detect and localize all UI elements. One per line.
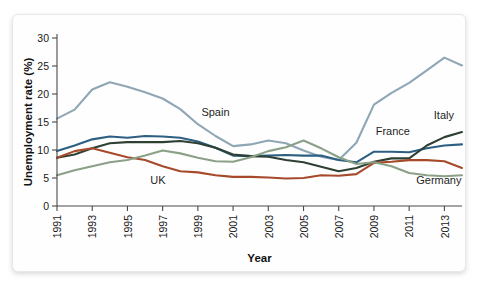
series-label-italy: Italy [434,109,455,121]
y-tick-label: 15 [37,116,49,128]
x-tick-label: 2007 [333,215,345,239]
x-tick-label: 2003 [263,215,275,239]
y-tick-label: 5 [43,172,49,184]
x-tick-label: 2011 [403,215,415,238]
series-label-france: France [376,125,410,137]
line-chart: 0510152025301991199319951997199920012003… [0,0,478,292]
x-axis-title: Year [247,252,272,264]
series-label-germany: Germany [416,174,462,186]
x-tick-label: 1997 [157,215,169,239]
series-line-spain [57,58,462,160]
x-tick-label: 2001 [227,215,239,239]
x-tick-label: 1993 [86,215,98,239]
y-tick-label: 25 [37,60,49,72]
y-tick-label: 20 [37,88,49,100]
x-tick-label: 1999 [192,215,204,239]
series-label-uk: UK [150,174,166,186]
x-tick-label: 2009 [368,215,380,239]
y-axis-title: Unemployment rate (%) [22,58,34,187]
x-tick-label: 2005 [298,215,310,239]
x-tick-label: 1995 [122,215,134,239]
chart-page: 0510152025301991199319951997199920012003… [0,0,478,292]
series-layer [57,58,462,179]
x-tick-label: 1991 [51,215,63,239]
x-tick-label: 2013 [439,215,451,239]
y-tick-label: 30 [37,32,49,44]
chart-figure: 0510152025301991199319951997199920012003… [0,0,478,292]
y-tick-label: 10 [37,144,49,156]
series-label-spain: Spain [201,106,229,118]
y-tick-label: 0 [43,200,49,212]
